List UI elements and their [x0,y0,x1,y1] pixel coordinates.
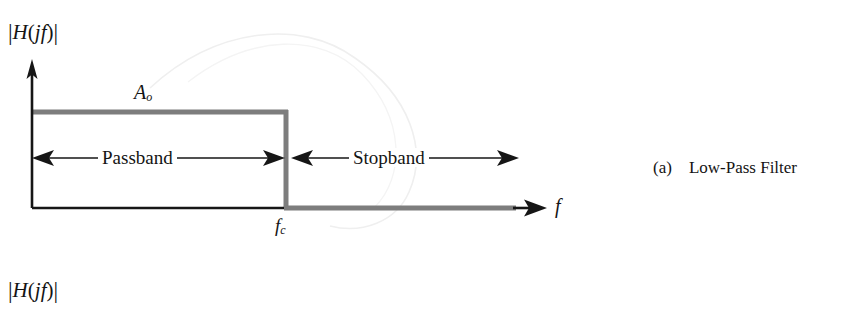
cutoff-frequency-label: fc [275,216,286,236]
y-axis-label-b-open-paren: ( [28,278,35,302]
y-axis-label-b-open-bar: | [8,278,13,303]
stopband-label: Stopband [349,148,429,167]
y-axis-label-open-paren: ( [28,20,35,44]
plateau-amplitude-symbol: A [134,81,146,103]
y-axis-label-b-h: H [13,278,28,302]
vertical-axis [27,59,38,208]
y-axis-label-b-close-bar: | [53,278,58,303]
frequency-axis-arrow [513,200,547,217]
plateau-amplitude-label: Ao [134,82,152,103]
x-axis-label-panel-a: f [555,196,561,216]
y-axis-label-h: H [13,20,28,44]
cutoff-frequency-subscript: c [280,223,285,237]
plateau-amplitude-subscript: o [146,90,152,104]
figure-caption-marker: (a) [653,158,672,177]
y-axis-label-panel-b: |H(jf)| [8,278,58,301]
y-axis-label-close-bar: | [53,20,58,45]
y-axis-label-panel-a: |H(jf)| [8,20,58,43]
figure-caption-text: Low-Pass Filter [689,158,797,177]
passband-label: Passband [98,148,177,167]
y-axis-label-open-bar: | [8,20,13,45]
figure-low-pass-filter: |H(jf)| Ao Passband Stopband fc f (a) Lo… [0,0,849,309]
caption-gap [672,158,689,177]
figure-caption: (a) Low-Pass Filter [636,138,797,198]
